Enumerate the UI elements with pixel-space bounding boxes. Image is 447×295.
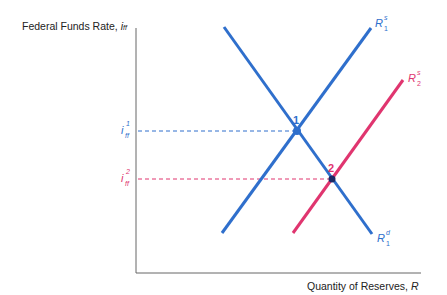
label-r2s: Rs2 [408,73,416,84]
equilibrium-point-2 [329,176,336,183]
point-label-2: 2 [328,162,334,174]
label-r1s: Rs1 [375,18,383,29]
diagram-canvas [0,0,447,295]
point-label-1: 1 [293,114,299,126]
label-r1d: Rd1 [377,233,385,244]
label-iff1: i1ff [121,125,123,136]
equilibrium-point-1 [293,127,301,135]
x-axis-label: Quantity of Reserves, R [307,280,418,292]
y-axis-label: Federal Funds Rate, iff [22,20,127,32]
supply-curve-r2s [293,80,403,233]
label-iff2: i2ff [121,173,123,184]
